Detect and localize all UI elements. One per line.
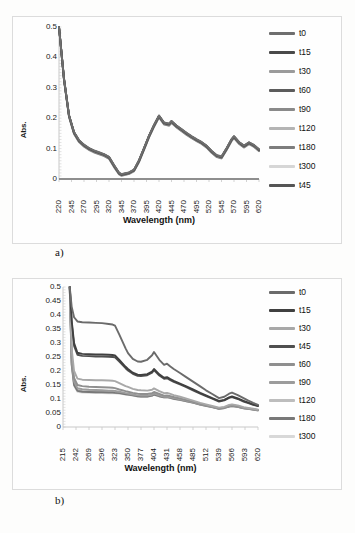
series-line-t120 [59,27,259,175]
legend-item-t60[interactable]: t60 [269,86,311,95]
legend-item-t300[interactable]: t300 [269,162,316,171]
legend-label-t15: t15 [299,306,311,315]
legend-label-t90: t90 [299,105,311,114]
x-tick-label: 595 [243,200,251,213]
x-tick-label: 323 [111,448,119,461]
x-tick-label: 445 [168,200,176,213]
x-tick-label: 296 [98,448,106,461]
figure-page: Abs. 00.10.20.30.40.5 220245270295320345… [0,0,355,533]
series-line-t60 [59,27,259,175]
legend-item-t30[interactable]: t30 [269,67,311,76]
x-tick-label: 395 [143,200,151,213]
legend-item-t0[interactable]: t0 [269,288,306,297]
legend-label-t300: t300 [299,432,316,441]
legend-label-t90: t90 [299,378,311,387]
legend-swatch-t120 [269,399,295,402]
legend-item-t0[interactable]: t0 [269,29,306,38]
x-tick-label: 566 [228,448,236,461]
y-tick-label: 0.45 [45,297,61,305]
x-tick-label: 320 [105,200,113,213]
series-line-t180 [70,287,258,410]
legend-swatch-t15 [269,51,295,54]
chart-b-series-svg [63,287,258,427]
legend-item-t45[interactable]: t45 [269,181,311,190]
y-tick-label: 0.35 [45,325,61,333]
legend-swatch-t45 [269,345,295,348]
legend-item-t45[interactable]: t45 [269,342,311,351]
y-tick-label: 0.25 [45,353,61,361]
legend-label-t60: t60 [299,360,311,369]
legend-label-t0: t0 [299,288,306,297]
y-tick-label: 0.5 [50,283,61,291]
series-line-t0 [59,27,259,174]
x-tick-label: 470 [180,200,188,213]
legend-swatch-t0 [269,32,295,35]
y-tick-label: 0.1 [46,145,57,153]
legend-label-t300: t300 [299,162,316,171]
y-tick-label: 0 [57,423,61,431]
y-tick-label: 0.2 [46,114,57,122]
legend-swatch-t60 [269,363,295,366]
series-line-t30 [59,27,259,175]
legend-swatch-t300 [269,435,295,438]
legend-item-t300[interactable]: t300 [269,432,316,441]
chart-a-series-svg [59,27,259,179]
chart-a-plot-area [59,27,259,179]
legend-label-t60: t60 [299,86,311,95]
x-tick-label: 295 [93,200,101,213]
legend-swatch-t45 [269,184,295,187]
legend-label-t45: t45 [299,342,311,351]
x-tick-label: 404 [150,448,158,461]
legend-swatch-t120 [269,127,295,130]
legend-label-t120: t120 [299,124,316,133]
x-tick-label: 215 [59,448,67,461]
legend-item-t180[interactable]: t180 [269,414,316,423]
series-line-t90 [59,27,259,175]
legend-swatch-t90 [269,108,295,111]
x-tick-label: 545 [218,200,226,213]
legend-item-t30[interactable]: t30 [269,324,311,333]
legend-label-t45: t45 [299,181,311,190]
legend-swatch-t30 [269,70,295,73]
chart-b-y-axis-ticks: 00.050.10.150.20.250.30.350.40.450.5 [25,287,63,427]
x-tick-label: 431 [163,448,171,461]
legend-item-t90[interactable]: t90 [269,105,311,114]
chart-a-y-axis-ticks: 00.10.20.30.40.5 [25,27,59,179]
legend-swatch-t0 [269,291,295,294]
y-tick-label: 0.5 [46,23,57,31]
x-tick-label: 539 [215,448,223,461]
chart-panel-a: Abs. 00.10.20.30.40.5 220245270295320345… [12,16,342,244]
legend-swatch-t300 [269,165,295,168]
legend-label-t30: t30 [299,324,311,333]
y-tick-label: 0.4 [50,311,61,319]
x-tick-label: 512 [202,448,210,461]
legend-item-t180[interactable]: t180 [269,143,316,152]
y-tick-label: 0.1 [50,395,61,403]
legend-label-t15: t15 [299,48,311,57]
y-tick-label: 0.3 [50,339,61,347]
x-tick-label: 420 [155,200,163,213]
legend-label-t180: t180 [299,414,316,423]
x-tick-label: 620 [255,200,263,213]
x-tick-label: 345 [118,200,126,213]
legend-item-t15[interactable]: t15 [269,48,311,57]
x-tick-label: 377 [137,448,145,461]
y-tick-label: 0 [53,175,57,183]
x-tick-label: 495 [193,200,201,213]
y-tick-label: 0.15 [45,381,61,389]
y-tick-label: 0.2 [50,367,61,375]
panel-b-caption: b) [55,494,64,506]
y-tick-label: 0.05 [45,409,61,417]
chart-a: Abs. 00.10.20.30.40.5 220245270295320345… [13,17,341,243]
y-tick-label: 0.3 [46,84,57,92]
legend-item-t120[interactable]: t120 [269,124,316,133]
x-tick-label: 520 [205,200,213,213]
series-line-t300 [59,27,259,176]
legend-swatch-t180 [269,146,295,149]
legend-item-t60[interactable]: t60 [269,360,311,369]
series-line-t45 [59,27,259,175]
legend-item-t15[interactable]: t15 [269,306,311,315]
legend-item-t90[interactable]: t90 [269,378,311,387]
legend-item-t120[interactable]: t120 [269,396,316,405]
chart-b-x-axis-ticks: 2152422692963233503774044314584855125395… [63,431,258,461]
